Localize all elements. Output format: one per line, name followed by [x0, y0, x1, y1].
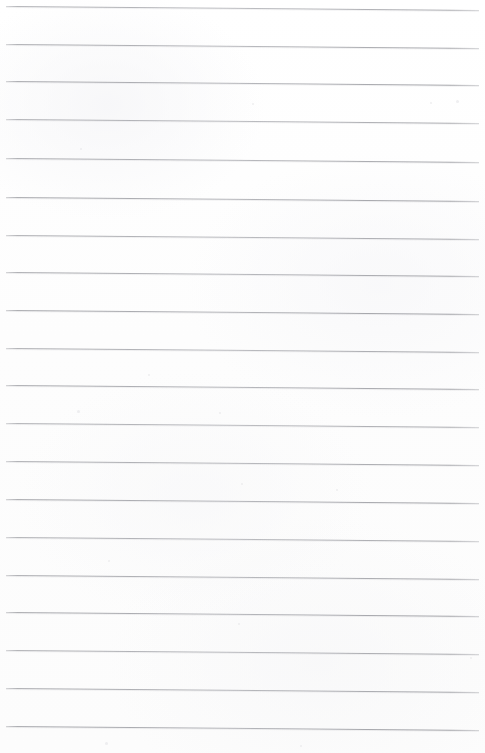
ruled-line — [6, 726, 479, 731]
scan-speck — [105, 742, 108, 745]
scan-speck — [219, 412, 221, 414]
ruled-line — [6, 575, 479, 580]
ruled-lines-layer — [0, 0, 485, 753]
ruled-line — [6, 197, 479, 202]
ruled-line — [6, 650, 479, 655]
scan-speck — [241, 483, 243, 485]
ruled-line — [6, 81, 479, 86]
ruled-line — [6, 423, 479, 428]
scan-speck — [470, 657, 472, 659]
ruled-line — [6, 348, 479, 353]
ruled-line — [6, 461, 479, 466]
ruled-line — [6, 310, 479, 315]
ruled-line — [6, 158, 479, 163]
ruled-line — [6, 612, 479, 617]
ruled-line — [6, 499, 479, 504]
scan-speck — [456, 100, 459, 103]
scan-speck — [108, 560, 110, 562]
scanned-page: Blank ruled notebook page — [0, 0, 485, 753]
ruled-line — [6, 272, 479, 277]
ruled-line — [6, 688, 479, 693]
scan-speck — [80, 148, 82, 150]
scan-speck — [336, 489, 338, 491]
scan-speck — [300, 745, 302, 747]
ruled-line — [6, 119, 479, 124]
ruled-line — [6, 537, 479, 542]
ruled-line — [6, 385, 479, 390]
scan-speck — [238, 623, 240, 625]
ruled-line — [6, 6, 479, 11]
ruled-line — [6, 235, 479, 240]
scan-speck — [252, 103, 254, 105]
ruled-line — [6, 44, 479, 49]
scan-speck — [77, 410, 80, 413]
scan-speck — [430, 102, 432, 104]
scan-speck — [148, 374, 150, 376]
